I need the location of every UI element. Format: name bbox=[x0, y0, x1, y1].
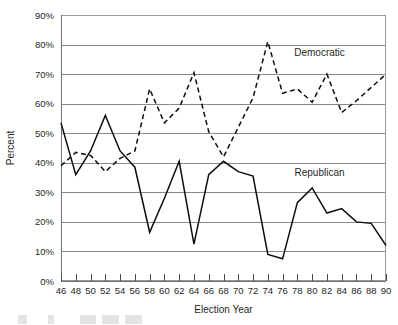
x-tick-label: 88 bbox=[366, 285, 377, 296]
x-tick-label: 68 bbox=[218, 285, 229, 296]
x-tick-label: 76 bbox=[277, 285, 288, 296]
y-tick-label: 0% bbox=[40, 276, 54, 287]
x-tick-label: 48 bbox=[70, 285, 81, 296]
x-tick-label: 64 bbox=[189, 285, 200, 296]
x-tick-label: 52 bbox=[100, 285, 111, 296]
y-axis-title: Percent bbox=[5, 131, 16, 166]
x-axis-title: Election Year bbox=[194, 304, 253, 315]
x-tick-label: 58 bbox=[144, 285, 155, 296]
line-chart: 0%10%20%30%40%50%60%70%80%90% 4648505254… bbox=[0, 0, 398, 325]
x-tick-label: 90 bbox=[381, 285, 392, 296]
x-tick-label: 86 bbox=[351, 285, 362, 296]
y-tick-label: 50% bbox=[35, 128, 55, 139]
y-tick-label: 30% bbox=[35, 187, 55, 198]
x-tick-label: 80 bbox=[307, 285, 318, 296]
x-tick-label: 70 bbox=[233, 285, 244, 296]
x-tick-label: 72 bbox=[248, 285, 259, 296]
x-tick-label: 54 bbox=[115, 285, 126, 296]
x-tick-label: 78 bbox=[292, 285, 303, 296]
series-annotations-group: DemocraticRepublican bbox=[294, 47, 345, 178]
x-tick-label: 62 bbox=[174, 285, 185, 296]
x-tick-label: 60 bbox=[159, 285, 170, 296]
republican-series-label: Republican bbox=[294, 167, 344, 178]
x-tick-label: 50 bbox=[85, 285, 96, 296]
y-tick-label: 80% bbox=[35, 39, 55, 50]
x-tick-label: 74 bbox=[263, 285, 274, 296]
y-tick-label: 70% bbox=[35, 69, 55, 80]
y-tick-label: 60% bbox=[35, 98, 55, 109]
series-line-republican bbox=[61, 115, 386, 258]
x-tick-label: 56 bbox=[130, 285, 141, 296]
y-tick-label: 20% bbox=[35, 216, 55, 227]
x-tick-label: 66 bbox=[203, 285, 214, 296]
y-tick-label: 40% bbox=[35, 157, 55, 168]
x-tick-label: 84 bbox=[336, 285, 347, 296]
y-tick-labels-group: 0%10%20%30%40%50%60%70%80%90% bbox=[35, 10, 55, 287]
y-tick-label: 90% bbox=[35, 10, 55, 21]
democratic-series-label: Democratic bbox=[294, 47, 345, 58]
series-line-democratic bbox=[61, 42, 386, 172]
page-edge-artifact bbox=[18, 315, 228, 324]
y-tick-label: 10% bbox=[35, 246, 55, 257]
x-tick-labels-group: 4648505254565860626466687072747678808284… bbox=[56, 285, 392, 296]
x-tick-marks-group bbox=[62, 274, 387, 281]
x-tick-label: 82 bbox=[322, 285, 333, 296]
x-tick-label: 46 bbox=[56, 285, 67, 296]
chart-figure: 0%10%20%30%40%50%60%70%80%90% 4648505254… bbox=[0, 0, 398, 325]
